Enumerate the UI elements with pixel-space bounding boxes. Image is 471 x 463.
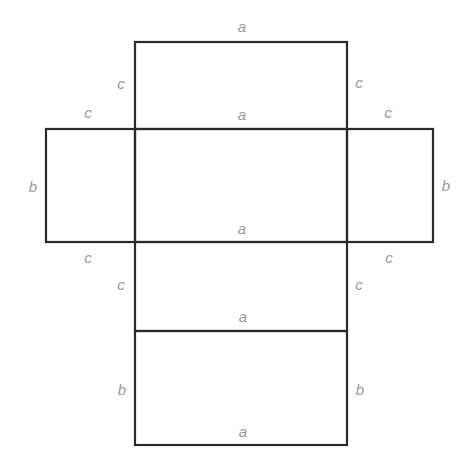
label-right-flap-top-c: c xyxy=(384,105,392,120)
label-left-flap-bottom-c: c xyxy=(84,250,92,265)
right-flap-face xyxy=(347,129,433,242)
left-flap-face xyxy=(46,129,135,242)
label-center-top-a: a xyxy=(238,107,246,122)
label-top-right-c: c xyxy=(355,75,363,90)
label-lower-left-c: c xyxy=(117,277,125,292)
label-top-left-c: c xyxy=(117,76,125,91)
label-left-flap-top-c: c xyxy=(84,105,92,120)
label-bottom-left-b: b xyxy=(118,382,126,397)
label-center-bottom-a: a xyxy=(238,221,246,236)
label-right-b: b xyxy=(442,178,450,193)
label-lower-a: a xyxy=(239,309,247,324)
net-outline xyxy=(0,0,471,463)
label-bottom-right-b: b xyxy=(356,382,364,397)
box-net-diagram: a c c c c a b b a c c c c a b b a xyxy=(0,0,471,463)
label-top-a: a xyxy=(238,19,246,34)
label-bottom-a: a xyxy=(239,424,247,439)
label-left-b: b xyxy=(29,179,37,194)
label-lower-right-c: c xyxy=(355,277,363,292)
label-right-flap-bottom-c: c xyxy=(385,250,393,265)
